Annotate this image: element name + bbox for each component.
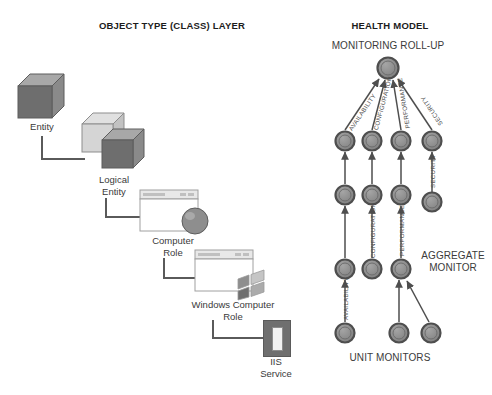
- edge-label-mid-security: SECURITY: [429, 154, 436, 188]
- edge-label-mid-performance: PERFORMANCE: [398, 205, 405, 256]
- node-row3-availability: [336, 186, 355, 205]
- health-model-title: HEALTH MODEL: [330, 20, 450, 31]
- connector-computer-windows-v: [163, 258, 165, 278]
- edge-label-rollup-security: SECURITY: [419, 95, 444, 127]
- cube-pair-icon: [80, 112, 148, 174]
- node-row3-performance: [392, 186, 411, 205]
- node-row3-security: [423, 193, 442, 212]
- node-row4-performance: [392, 260, 411, 279]
- node-unit-monitor-3: [422, 324, 441, 343]
- node-row4-configuration: [363, 260, 382, 279]
- node-row3-configuration: [363, 186, 382, 205]
- node-unit-monitor-1: [336, 324, 355, 343]
- connector-computer-windows-h: [163, 277, 197, 279]
- connector-logical-computer-v: [105, 198, 107, 217]
- edge-label-mid-configuration: CONFIGURATION: [369, 203, 376, 258]
- object-type-layer-title: OBJECT TYPE (CLASS) LAYER: [72, 20, 272, 31]
- node-unit-monitor-2: [390, 324, 409, 343]
- connector-entity-logical-h: [41, 158, 85, 160]
- edge-label-rollup-performance: PERFORMANCE: [396, 77, 411, 129]
- iis-service-icon: [263, 320, 291, 357]
- window-sphere-icon: [139, 189, 211, 237]
- unit-monitors-label: UNIT MONITORS: [330, 352, 450, 364]
- aggregate-monitor-label: AGGREGATE MONITOR: [414, 250, 492, 274]
- edge-label-rollup-configuration: CONFIGURATION: [372, 76, 393, 131]
- connector-windows-iis-v: [212, 320, 214, 338]
- connector-windows-iis-h: [212, 337, 265, 339]
- iis-service-label: IIS Service: [240, 356, 312, 379]
- node-row4-availability: [336, 260, 355, 279]
- edge-label-mid-availability: AVAILABILITY: [342, 277, 349, 320]
- node-row2-security: [423, 132, 442, 151]
- cube-dark-icon: [16, 72, 66, 120]
- health-model-graph: [0, 0, 492, 395]
- connector-entity-logical-v: [41, 136, 43, 159]
- diagram-canvas: OBJECT TYPE (CLASS) LAYER HEALTH MODEL E…: [0, 0, 492, 395]
- node-row2-availability: [336, 132, 355, 151]
- monitoring-rollup-label: MONITORING ROLL-UP: [318, 40, 458, 52]
- window-windows-logo-icon: [194, 249, 272, 301]
- windows-computer-role-label: Windows Computer Role: [176, 299, 290, 322]
- node-row2-performance: [392, 132, 411, 151]
- iis-service-inner-bar: [272, 327, 283, 351]
- connector-logical-computer-h: [105, 216, 142, 218]
- node-row2-configuration: [363, 132, 382, 151]
- entity-label: Entity: [6, 121, 78, 133]
